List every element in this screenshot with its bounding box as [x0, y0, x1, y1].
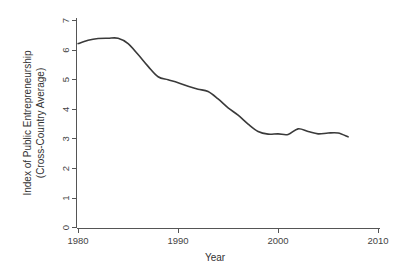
- y-axis-title-line2: (Cross-Country Average): [35, 68, 46, 178]
- x-tick-label-1980: 1980: [68, 235, 89, 246]
- y-tick-label-4: 4: [60, 107, 71, 112]
- y-tick-label-3: 3: [60, 136, 71, 141]
- x-tick-label-2010: 2010: [368, 235, 389, 246]
- y-axis-ticks: 7 6 5 4 3 2 1 0: [60, 18, 77, 230]
- x-axis-ticks: 1980 1990 2000 2010: [68, 229, 389, 247]
- y-tick-label-7: 7: [60, 18, 71, 23]
- x-tick-label-2000: 2000: [268, 235, 289, 246]
- y-tick-label-6: 6: [60, 47, 71, 52]
- y-tick-label-0: 0: [60, 225, 71, 230]
- y-axis-title-line1: Index of Public Entrepreneurship: [22, 50, 33, 196]
- y-tick-label-5: 5: [60, 77, 71, 82]
- series-line-public-entrepreneurship: [78, 38, 348, 137]
- x-tick-label-1990: 1990: [168, 235, 189, 246]
- y-tick-label-1: 1: [60, 195, 71, 200]
- chart-figure: 7 6 5 4 3 2 1 0 1980 1990 2000: [0, 0, 406, 273]
- y-tick-label-2: 2: [60, 166, 71, 171]
- line-chart: 7 6 5 4 3 2 1 0 1980 1990 2000: [0, 0, 406, 273]
- x-axis-title: Year: [205, 252, 226, 263]
